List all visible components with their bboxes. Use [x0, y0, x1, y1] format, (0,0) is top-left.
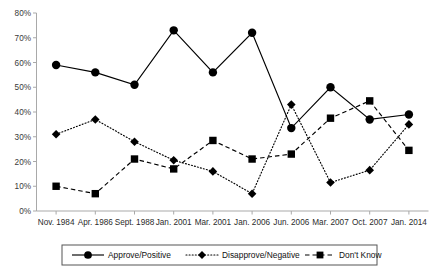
x-tick-label: Sept. 1988 [115, 218, 155, 227]
data-point-circle [170, 26, 178, 34]
data-point-circle [405, 110, 413, 118]
x-tick-label: Mar. 2007 [312, 218, 349, 227]
data-point-square [317, 252, 324, 259]
x-tick-label: Jan. 2001 [156, 218, 192, 227]
data-point-circle [287, 124, 295, 132]
data-point-circle [209, 68, 217, 76]
legend-item[interactable]: Approve/Positive [72, 250, 171, 260]
y-tick-label: 0% [19, 207, 31, 216]
data-point-circle [248, 29, 256, 37]
y-tick-label: 80% [15, 9, 31, 18]
data-point-square [248, 155, 255, 162]
legend-item-label: Don't Know [339, 250, 383, 260]
x-tick-label: Oct. 2007 [352, 218, 388, 227]
data-point-circle [84, 251, 92, 259]
data-point-square [209, 137, 216, 144]
data-point-circle [326, 83, 334, 91]
y-tick-label: 10% [15, 182, 31, 191]
chart-background [0, 0, 436, 280]
x-tick-label: Jun. 2006 [273, 218, 309, 227]
x-tick-label: Jan. 2006 [234, 218, 270, 227]
data-point-square [288, 150, 295, 157]
y-tick-label: 20% [15, 158, 31, 167]
legend-item-label: Approve/Positive [108, 250, 171, 260]
y-tick-label: 30% [15, 133, 31, 142]
data-point-square [170, 165, 177, 172]
data-point-square [92, 190, 99, 197]
x-tick-label: Nov. 1984 [38, 218, 75, 227]
data-point-square [405, 147, 412, 154]
x-tick-label: Apr. 1986 [78, 218, 113, 227]
data-point-circle [91, 68, 99, 76]
data-point-square [327, 114, 334, 121]
data-point-square [366, 97, 373, 104]
chart-legend: Approve/PositiveDisapprove/NegativeDon't… [62, 245, 383, 265]
y-tick-label: 60% [15, 59, 31, 68]
data-point-circle [52, 61, 60, 69]
data-point-circle [130, 81, 138, 89]
y-tick-label: 40% [15, 108, 31, 117]
y-tick-label: 50% [15, 83, 31, 92]
line-chart: 0%10%20%30%40%50%60%70%80% Nov. 1984Apr.… [0, 0, 436, 280]
legend-item-label: Disapprove/Negative [222, 250, 300, 260]
x-tick-label: Jan. 2014 [391, 218, 427, 227]
data-point-circle [366, 115, 374, 123]
data-point-square [131, 155, 138, 162]
data-point-square [52, 183, 59, 190]
chart-container: 0%10%20%30%40%50%60%70%80% Nov. 1984Apr.… [0, 0, 436, 280]
y-tick-label: 70% [15, 34, 31, 43]
x-tick-label: Mar. 2001 [195, 218, 232, 227]
